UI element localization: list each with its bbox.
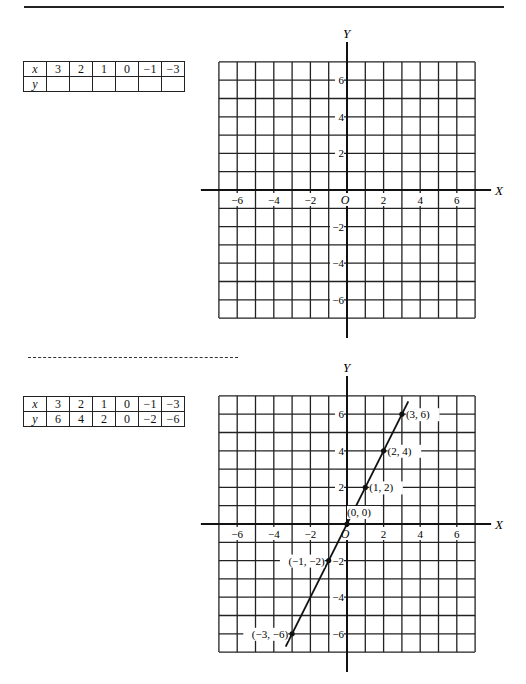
y-tick-label: −2 [332,555,344,567]
x-tick-label: 6 [454,194,460,206]
point-label: (3, 6) [406,408,430,421]
y-tick-label: 2 [339,147,345,159]
data-point [326,558,331,563]
point-label: (1, 2) [369,481,393,494]
x-tick-label: 2 [381,194,387,206]
graphs-canvas: XY−6−4−2246O642−2−4−6 XY−6−4−2246O642−2−… [0,0,526,684]
data-point [363,485,368,490]
data-point [399,412,404,417]
graph-blank: XY−6−4−2246O642−2−4−6 [201,26,504,338]
x-tick-label: 4 [417,194,423,206]
x-tick-label: 6 [454,528,460,540]
point-label: (2, 4) [388,445,412,458]
graph-line-plot: XY−6−4−2246O642−2−4−6(3, 6)(2, 4)(1, 2)(… [201,360,504,672]
origin-label: O [341,193,350,207]
y-tick-label: 6 [339,408,345,420]
y-tick-label: −6 [332,628,344,640]
x-axis-label: X [494,517,504,532]
x-tick-label: −4 [268,194,280,206]
x-tick-label: 2 [381,528,387,540]
data-point [381,448,386,453]
y-tick-label: 2 [339,481,345,493]
x-tick-label: −4 [268,528,280,540]
data-point [344,521,349,526]
point-label: (−1, −2) [288,555,325,568]
x-tick-label: 4 [417,528,423,540]
point-label: (0, 0) [347,506,371,519]
x-axis-label: X [494,183,504,198]
y-tick-label: −6 [332,294,344,306]
x-tick-label: −2 [305,528,317,540]
x-tick-label: −6 [231,194,243,206]
y-tick-label: 6 [339,74,345,86]
y-tick-label: 4 [339,111,345,123]
y-axis-label: Y [343,26,352,41]
x-tick-label: −2 [305,194,317,206]
x-tick-label: −6 [231,528,243,540]
y-axis-label: Y [343,360,352,375]
y-tick-label: 4 [339,445,345,457]
y-tick-label: −2 [332,221,344,233]
point-label: (−3, −6) [252,628,289,641]
data-point [290,631,295,636]
y-tick-label: −4 [332,257,344,269]
y-tick-label: −4 [332,591,344,603]
